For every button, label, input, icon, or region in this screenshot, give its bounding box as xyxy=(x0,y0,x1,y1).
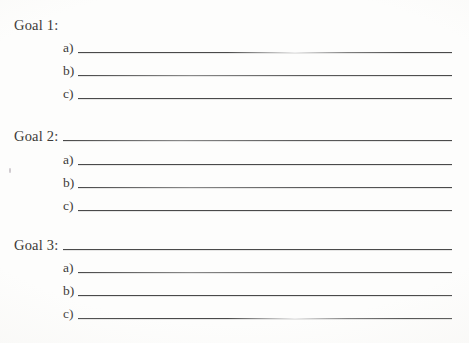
goal-1-item-a-writing-line[interactable] xyxy=(78,52,452,53)
goal-1-item-b-writing-line[interactable] xyxy=(78,75,452,76)
goal-2-item-a-label: a) xyxy=(63,153,74,167)
goal-3-item-c-writing-line[interactable] xyxy=(78,318,452,319)
goal-1-item-c-writing-line[interactable] xyxy=(78,98,452,99)
goal-1-item-b-label: b) xyxy=(63,64,74,78)
goal-1-item-c-label: c) xyxy=(63,87,74,101)
goal-3-label: Goal 3: xyxy=(14,238,59,253)
goal-2-item-a-writing-line[interactable] xyxy=(78,164,452,165)
goal-2-item-c-label: c) xyxy=(63,199,74,213)
scan-artifact-speck xyxy=(9,168,11,173)
goal-3-item-b-writing-line[interactable] xyxy=(78,295,452,296)
goal-1-label: Goal 1: xyxy=(14,18,59,33)
goal-1-item-a-label: a) xyxy=(63,41,74,55)
goal-2-item-b-writing-line[interactable] xyxy=(78,187,452,188)
worksheet-page: Goal 1: a) b) c) Goal 2: a) b) c) Goal 3… xyxy=(0,0,469,343)
goal-2-item-b-label: b) xyxy=(63,176,74,190)
goal-2-item-c-writing-line[interactable] xyxy=(78,210,452,211)
goal-3-title-writing-line[interactable] xyxy=(63,249,452,250)
goal-3-item-c-label: c) xyxy=(63,307,74,321)
goal-3-item-a-label: a) xyxy=(63,261,74,275)
goal-2-title-writing-line[interactable] xyxy=(63,140,452,141)
goal-2-label: Goal 2: xyxy=(14,129,59,144)
goal-3-item-a-writing-line[interactable] xyxy=(78,272,452,273)
goal-3-item-b-label: b) xyxy=(63,284,74,298)
